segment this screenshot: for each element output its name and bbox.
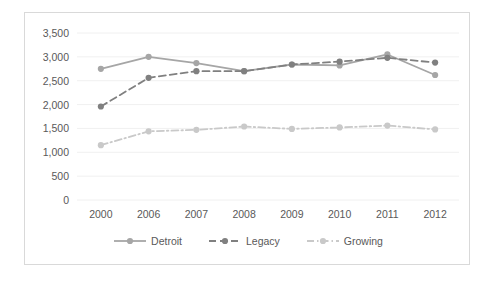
legend-item-legacy[interactable]: Legacy (208, 235, 280, 247)
y-axis-tick-label: 3,500 (25, 28, 69, 39)
data-point-growing-2010 (337, 124, 343, 130)
data-point-legacy-2009 (289, 61, 295, 67)
data-point-detroit-2006 (146, 54, 152, 60)
data-point-detroit-2000 (98, 66, 104, 72)
data-point-growing-2007 (193, 127, 199, 133)
data-point-growing-2000 (98, 142, 104, 148)
data-point-growing-2012 (432, 126, 438, 132)
y-axis-tick-label: 1,000 (25, 147, 69, 158)
legend-swatch-legacy (208, 235, 242, 247)
line-chart-plot (25, 13, 471, 266)
data-point-legacy-2012 (432, 59, 438, 65)
data-point-detroit-2007 (193, 60, 199, 66)
y-axis-tick-label: 0 (25, 195, 69, 206)
data-point-legacy-2011 (384, 55, 390, 61)
y-axis-tick-label: 2,500 (25, 76, 69, 87)
data-point-legacy-2008 (241, 68, 247, 74)
legend-swatch-detroit (113, 235, 147, 247)
legend-swatch-growing (306, 235, 340, 247)
legend-item-detroit[interactable]: Detroit (113, 235, 182, 247)
data-point-legacy-2010 (337, 59, 343, 65)
data-point-growing-2009 (289, 126, 295, 132)
series-layer (98, 51, 438, 148)
y-axis-tick-label: 500 (25, 171, 69, 182)
data-point-legacy-2000 (98, 103, 104, 109)
y-axis-tick-label: 3,000 (25, 52, 69, 63)
y-axis-tick-label: 1,500 (25, 123, 69, 134)
legend-label: Detroit (151, 236, 182, 247)
legend-label: Growing (344, 236, 383, 247)
gridlines (77, 33, 459, 200)
data-point-detroit-2012 (432, 72, 438, 78)
series-line-legacy (101, 58, 435, 107)
data-point-growing-2006 (146, 128, 152, 134)
data-point-legacy-2007 (193, 68, 199, 74)
data-point-growing-2008 (241, 123, 247, 129)
legend-item-growing[interactable]: Growing (306, 235, 383, 247)
data-point-growing-2011 (384, 122, 390, 128)
chart-container: 05001,0001,5002,0002,5003,0003,500 20002… (24, 12, 470, 265)
legend-label: Legacy (246, 236, 280, 247)
y-axis-tick-label: 2,000 (25, 100, 69, 111)
data-point-legacy-2006 (146, 75, 152, 81)
chart-legend: DetroitLegacyGrowing (25, 235, 471, 247)
x-axis-tick-label: 2012 (405, 209, 465, 220)
